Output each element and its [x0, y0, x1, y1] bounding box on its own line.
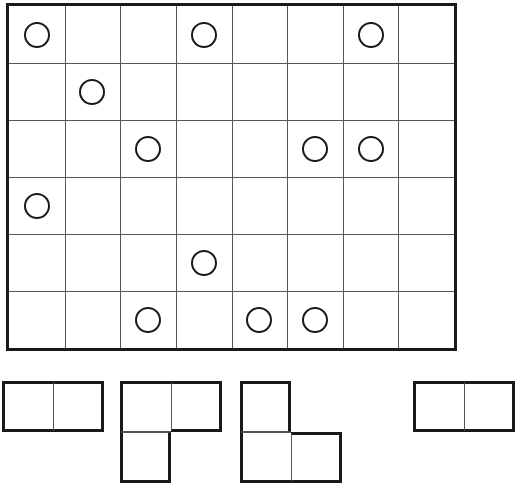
- board-cell[interactable]: [65, 234, 121, 291]
- board-cell[interactable]: [9, 234, 65, 291]
- board-cell[interactable]: [287, 63, 343, 120]
- board-cell[interactable]: [65, 63, 121, 120]
- board-cell[interactable]: [343, 291, 399, 348]
- board-cell[interactable]: [65, 177, 121, 234]
- board-cell[interactable]: [343, 63, 399, 120]
- board-cell[interactable]: [176, 120, 232, 177]
- board-cell[interactable]: [176, 6, 232, 63]
- board-cell[interactable]: [120, 234, 176, 291]
- board-cell[interactable]: [9, 63, 65, 120]
- circle-icon: [24, 193, 50, 219]
- board-cell[interactable]: [232, 291, 288, 348]
- board-cell[interactable]: [120, 177, 176, 234]
- piece-cell: [120, 432, 171, 483]
- board-cell[interactable]: [287, 6, 343, 63]
- board-cell[interactable]: [398, 120, 454, 177]
- board-cell[interactable]: [120, 291, 176, 348]
- board-cell[interactable]: [65, 120, 121, 177]
- circle-icon: [302, 307, 328, 333]
- board-cell[interactable]: [9, 120, 65, 177]
- board-cell[interactable]: [120, 6, 176, 63]
- board-cell[interactable]: [398, 63, 454, 120]
- board-cell[interactable]: [232, 234, 288, 291]
- board-cell[interactable]: [232, 177, 288, 234]
- board-cell[interactable]: [398, 234, 454, 291]
- board-cell[interactable]: [398, 6, 454, 63]
- board-cell[interactable]: [343, 6, 399, 63]
- board-cell[interactable]: [287, 234, 343, 291]
- piece-cell: [464, 381, 515, 432]
- piece-cell: [413, 381, 464, 432]
- board-cell[interactable]: [120, 120, 176, 177]
- board-cell[interactable]: [176, 177, 232, 234]
- puzzle-board: [6, 3, 457, 351]
- piece-cell: [240, 432, 291, 483]
- circle-icon: [191, 250, 217, 276]
- circle-icon: [302, 136, 328, 162]
- board-cell[interactable]: [65, 6, 121, 63]
- board-cell[interactable]: [232, 6, 288, 63]
- circle-icon: [191, 22, 217, 48]
- board-cell[interactable]: [9, 6, 65, 63]
- piece-cell: [240, 381, 291, 432]
- board-cell[interactable]: [176, 291, 232, 348]
- circle-icon: [79, 79, 105, 105]
- board-cell[interactable]: [232, 63, 288, 120]
- circle-icon: [135, 136, 161, 162]
- board-cell[interactable]: [287, 120, 343, 177]
- board-cell[interactable]: [398, 291, 454, 348]
- board-cell[interactable]: [65, 291, 121, 348]
- board-cell[interactable]: [343, 120, 399, 177]
- board-cell[interactable]: [232, 120, 288, 177]
- piece-cell: [2, 381, 53, 432]
- board-cell[interactable]: [287, 291, 343, 348]
- piece-cell: [171, 381, 222, 432]
- board-cell[interactable]: [176, 234, 232, 291]
- board-cell[interactable]: [343, 177, 399, 234]
- piece-cell: [53, 381, 104, 432]
- circle-icon: [135, 307, 161, 333]
- piece-cell: [291, 432, 342, 483]
- piece-cell: [120, 381, 171, 432]
- circle-icon: [246, 307, 272, 333]
- circle-icon: [358, 22, 384, 48]
- board-cell[interactable]: [176, 63, 232, 120]
- board-cell[interactable]: [398, 177, 454, 234]
- board-cell[interactable]: [9, 291, 65, 348]
- board-cell[interactable]: [9, 177, 65, 234]
- board-cell[interactable]: [343, 234, 399, 291]
- circle-icon: [24, 22, 50, 48]
- board-cell[interactable]: [120, 63, 176, 120]
- board-cell[interactable]: [287, 177, 343, 234]
- circle-icon: [358, 136, 384, 162]
